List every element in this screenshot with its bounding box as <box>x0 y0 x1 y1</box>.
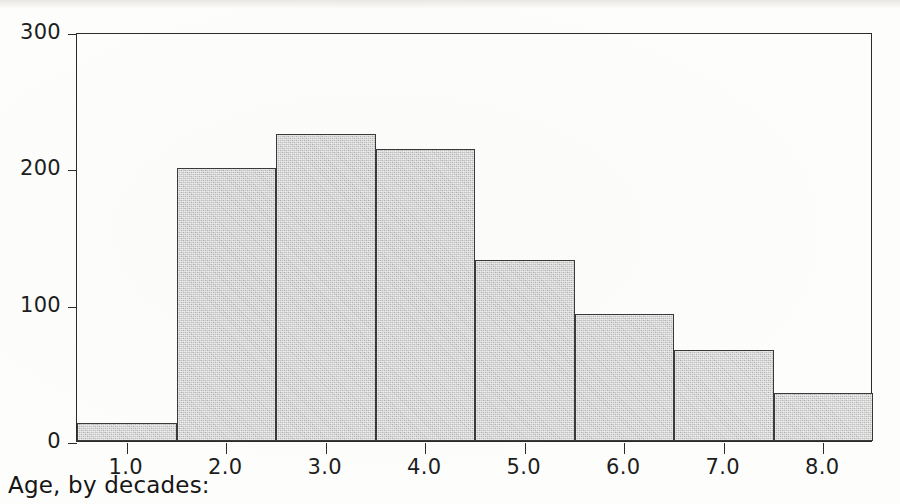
y-axis-tick-label: 0 <box>3 429 61 453</box>
histogram-bar <box>276 134 376 441</box>
x-axis-tick <box>724 443 725 454</box>
x-axis-tick <box>624 443 625 454</box>
x-axis-tick-label: 3.0 <box>290 455 360 479</box>
y-axis-tick-label: 200 <box>3 156 61 180</box>
x-axis-tick <box>326 443 327 454</box>
x-axis-tick-label: 4.0 <box>389 455 459 479</box>
histogram-bar <box>475 260 575 441</box>
x-axis-tick-label: 6.0 <box>588 455 658 479</box>
y-axis-tick <box>68 170 77 171</box>
histogram-bar <box>575 314 675 441</box>
histogram-bar <box>77 423 177 441</box>
page-scan-band <box>0 0 900 9</box>
x-axis-tick <box>127 443 128 454</box>
y-axis-tick <box>68 443 77 444</box>
x-axis-tick <box>226 443 227 454</box>
x-axis-tick-label: 7.0 <box>688 455 758 479</box>
plot-area <box>76 33 872 442</box>
y-axis-tick <box>68 307 77 308</box>
x-axis-tick <box>525 443 526 454</box>
x-axis-tick <box>425 443 426 454</box>
x-axis-tick-label: 5.0 <box>489 455 559 479</box>
y-axis-tick-label: 300 <box>3 20 61 44</box>
histogram-bar <box>376 149 476 441</box>
histogram-bar <box>774 393 874 441</box>
histogram-bar <box>674 350 774 441</box>
bars-group <box>77 34 871 441</box>
histogram-page: 0100200300 1.02.03.04.05.06.07.08.0 Age,… <box>0 0 900 504</box>
histogram-bar <box>177 168 277 441</box>
y-axis-tick-label: 100 <box>3 293 61 317</box>
y-axis-tick <box>68 34 77 35</box>
x-axis-caption: Age, by decades: <box>8 472 210 498</box>
x-axis-tick <box>823 443 824 454</box>
x-axis-tick-label: 8.0 <box>787 455 857 479</box>
